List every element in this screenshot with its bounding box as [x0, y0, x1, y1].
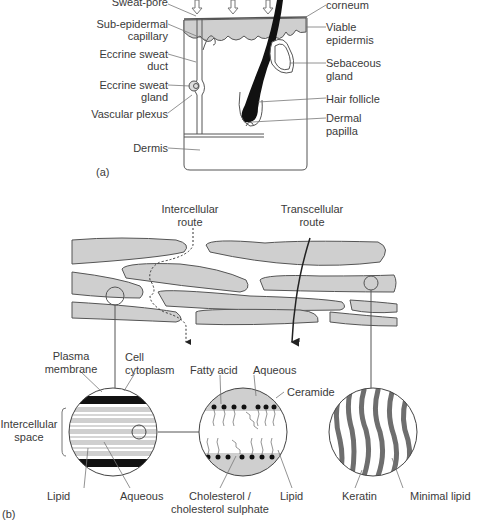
- skin-cross-section: [168, 0, 326, 170]
- label-plasma: Plasma: [36, 350, 106, 362]
- label-transcellular-route-2: route: [272, 216, 352, 228]
- label-epidermis: epidermis: [326, 34, 374, 46]
- label-ceramide: Ceramide: [287, 386, 335, 398]
- label-membrane: membrane: [36, 363, 106, 375]
- label-cholesterol-sulphate: cholesterol sulphate: [160, 503, 280, 515]
- label-viable: Viable: [326, 21, 356, 33]
- stratum-corneum-bricks: [72, 238, 397, 326]
- label-sebaceous: Sebaceous: [326, 57, 381, 69]
- label-intercellular-route: Intercellular: [150, 203, 230, 215]
- label-papilla: papilla: [326, 125, 358, 137]
- panel-a-tag: (a): [96, 166, 109, 178]
- label-minimal-lipid: Minimal lipid: [410, 490, 471, 502]
- label-eccrine-duct: Eccrine sweat: [64, 48, 168, 60]
- label-cholesterol: Cholesterol /: [160, 490, 280, 502]
- label-lipid-1: Lipid: [47, 490, 70, 502]
- label-cytoplasm: cytoplasm: [125, 364, 175, 376]
- label-gland: gland: [64, 91, 168, 103]
- circle-keratin: [329, 388, 417, 476]
- label-fatty-acid: Fatty acid: [190, 364, 238, 376]
- label-space: space: [0, 431, 58, 443]
- label-aqueous-1: Aqueous: [120, 490, 163, 502]
- label-duct: duct: [64, 60, 168, 72]
- label-capillary: capillary: [64, 30, 168, 42]
- label-dermis: Dermis: [84, 142, 168, 154]
- label-keratin: Keratin: [342, 490, 377, 502]
- label-lipid-2: Lipid: [280, 490, 303, 502]
- label-transcellular-route: Transcellular: [272, 203, 352, 215]
- circle-lipid-layers: [62, 388, 157, 476]
- label-aqueous-2: Aqueous: [253, 364, 296, 376]
- label-sweat-pore: Sweat-pore: [84, 0, 168, 8]
- circle-lipid-bilayer: [199, 388, 287, 476]
- label-hair-follicle: Hair follicle: [326, 93, 380, 105]
- label-stratum-corneum: corneum: [326, 0, 369, 11]
- label-sebaceous-gland: gland: [326, 70, 353, 82]
- label-cell: Cell: [125, 351, 144, 363]
- label-eccrine-gland: Eccrine sweat: [64, 79, 168, 91]
- label-dermal: Dermal: [326, 112, 361, 124]
- label-sub-epidermal: Sub-epidermal: [64, 18, 168, 30]
- panel-b-tag: (b): [2, 508, 15, 520]
- label-intercellular-route-2: route: [150, 216, 230, 228]
- label-vascular-plexus: Vascular plexus: [44, 108, 168, 120]
- label-intercellular-space: Intercellular: [0, 418, 58, 430]
